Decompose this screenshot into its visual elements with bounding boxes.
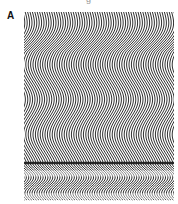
caption-fragment: g bbox=[86, 0, 91, 4]
panel-label: A bbox=[7, 11, 14, 21]
wavy-line-figure bbox=[24, 12, 174, 201]
wavy-pattern-image bbox=[24, 12, 174, 201]
